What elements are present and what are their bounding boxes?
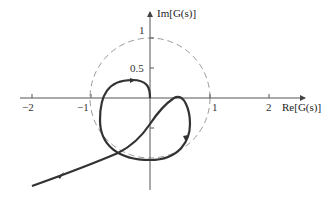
y-ticks: [150, 38, 154, 128]
x-tick-label: 2: [266, 101, 272, 113]
x-tick-label: −1: [77, 101, 89, 113]
imaginary-axis-label: Im[G(s)]: [157, 7, 196, 20]
x-tick-label: 1: [212, 101, 218, 113]
y-tick-label: 1: [139, 24, 145, 36]
nyquist-curve: [32, 80, 190, 186]
y-tick-label: 0.5: [130, 62, 144, 74]
x-tick-label: −2: [22, 101, 34, 113]
real-axis-label: Re[G(s)]: [282, 101, 321, 114]
nyquist-diagram: −2 −1 1 2 1 0.5 Im[G(s)] Re[G(s)]: [0, 0, 334, 197]
